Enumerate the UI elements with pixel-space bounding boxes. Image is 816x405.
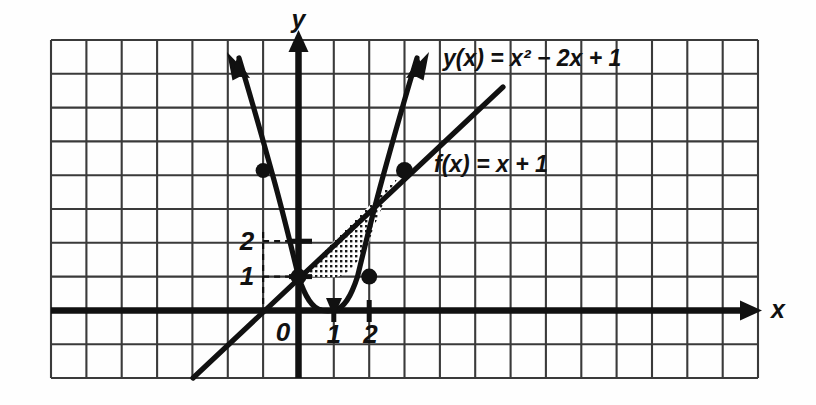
grid (51, 40, 758, 378)
point-2-1 (361, 269, 377, 285)
point-neg1-4 (256, 163, 271, 178)
x-tick-label-2: 2 (362, 319, 378, 349)
origin-label: 0 (276, 317, 291, 347)
y-tick-label-1: 1 (240, 261, 254, 291)
point-3-4 (396, 162, 413, 179)
x-tick-label-1: 1 (327, 319, 341, 349)
line-equation-label: f(x) = x + 1 (434, 151, 548, 177)
figure-canvas: y x 0 1 2 1 2 y(x) = x² − 2x + 1 f(x) = … (0, 0, 816, 405)
y-axis-label: y (290, 5, 307, 33)
y-tick-label-2: 2 (239, 226, 255, 256)
x-axis-label: x (769, 295, 786, 323)
parabola-equation-label: y(x) = x² − 2x + 1 (442, 45, 621, 71)
graph-svg: y x 0 1 2 1 2 y(x) = x² − 2x + 1 f(x) = … (0, 0, 816, 405)
point-0-1 (291, 269, 307, 285)
